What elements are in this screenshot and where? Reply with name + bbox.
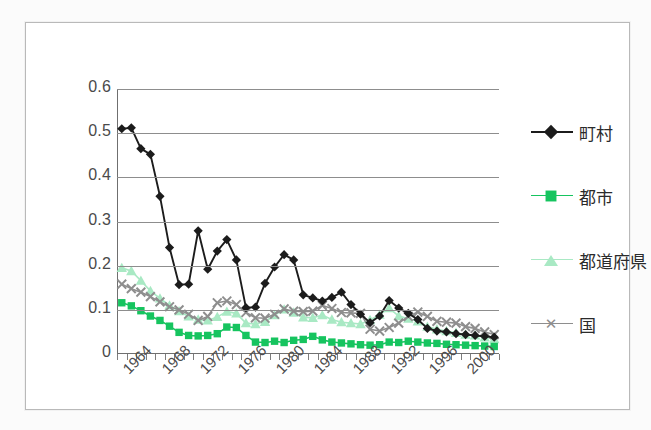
legend-symbol — [546, 191, 557, 202]
legend-label: 国 — [579, 312, 596, 337]
legend-item-都市[interactable]: 都市 — [531, 185, 646, 207]
x-tick-label: 1972 — [196, 341, 232, 377]
legend-label: 都市 — [579, 184, 613, 209]
legend-marker-triangle-icon — [531, 251, 573, 269]
legend-item-国[interactable]: ✕国 — [531, 313, 646, 335]
legend-marker-x-icon: ✕ — [531, 315, 573, 333]
x-tick-label: 1980 — [272, 341, 308, 377]
chart-legend: 町村都市都道府県✕国 — [531, 121, 646, 377]
legend-item-町村[interactable]: 町村 — [531, 121, 646, 143]
x-tick-label: 1988 — [349, 341, 385, 377]
x-tick-label: 1976 — [234, 341, 270, 377]
legend-symbol — [544, 255, 558, 266]
x-tick-label: 1984 — [310, 341, 346, 377]
x-tick-label: 1992 — [387, 341, 423, 377]
legend-marker-diamond-icon — [531, 123, 573, 141]
chart-frame: 00.10.20.30.40.50.6 19641968197219761980… — [25, 22, 630, 410]
screenshot-page: 00.10.20.30.40.50.6 19641968197219761980… — [0, 0, 651, 430]
legend-label: 都道府県 — [579, 248, 647, 273]
x-tick-label: 2000 — [463, 341, 499, 377]
x-tick-label: 1996 — [425, 341, 461, 377]
legend-symbol — [544, 125, 558, 139]
x-tick-label: 1964 — [119, 341, 155, 377]
legend-symbol: ✕ — [544, 317, 558, 331]
legend-item-都道府県[interactable]: 都道府県 — [531, 249, 646, 271]
legend-marker-square-icon — [531, 187, 573, 205]
x-tick-label: 1968 — [158, 341, 194, 377]
legend-label: 町村 — [579, 120, 613, 145]
